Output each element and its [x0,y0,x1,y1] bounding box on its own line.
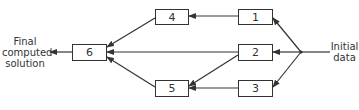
edge-input-to-3 [273,52,301,87]
node-6-label: 6 [86,46,93,59]
node-5: 5 [155,80,189,97]
output-label: Final computed solution [2,36,48,69]
input-label-line-1: Initial [330,41,359,52]
node-3: 3 [238,80,273,97]
edge-5-to-6 [107,57,155,87]
output-label-line-3: solution [2,58,48,69]
node-1-label: 1 [252,11,259,24]
input-label-line-2: data [330,52,359,63]
edge-input-to-1 [273,18,301,52]
output-label-line-1: Final [2,36,48,47]
edge-2-to-5 [189,55,238,86]
node-1: 1 [238,9,273,25]
fork-point [299,50,302,53]
output-label-line-2: computed [2,47,48,58]
node-5-label: 5 [169,82,176,95]
flow-diagram: 4 1 6 2 5 3 Final computed solution Init… [0,0,359,110]
node-6: 6 [72,44,107,61]
node-2-label: 2 [252,46,259,59]
node-3-label: 3 [252,82,259,95]
input-label: Initial data [330,41,359,63]
node-4: 4 [155,9,189,25]
node-2: 2 [238,44,273,61]
edge-4-to-6 [107,18,155,47]
node-4-label: 4 [169,11,176,24]
